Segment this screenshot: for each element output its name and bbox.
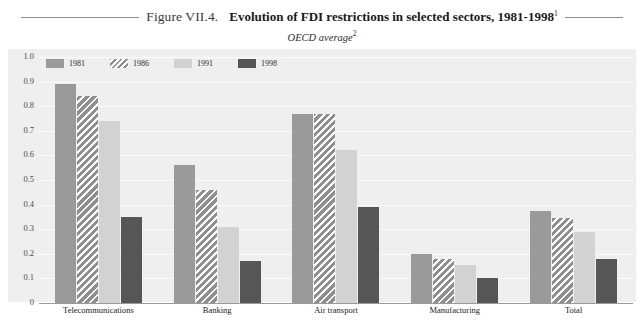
x-axis-line bbox=[39, 303, 633, 304]
y-axis-tick-label: 0.6 bbox=[23, 149, 34, 159]
header-rule-right bbox=[565, 17, 623, 18]
y-axis-tick-label: 0 bbox=[30, 297, 34, 307]
bar-1998[interactable] bbox=[477, 278, 498, 303]
bar-group bbox=[277, 57, 396, 303]
bar-1991[interactable] bbox=[218, 227, 239, 303]
y-axis-tick-label: 0.5 bbox=[23, 174, 34, 184]
category-label: Air transport bbox=[277, 305, 396, 315]
figure-header: Figure VII.4. Evolution of FDI restricti… bbox=[0, 6, 644, 28]
bar-group bbox=[395, 57, 514, 303]
bar-1981[interactable] bbox=[411, 254, 432, 303]
bar-group bbox=[39, 57, 158, 303]
title-footnote-marker: 1 bbox=[554, 9, 558, 18]
bar-1991[interactable] bbox=[336, 150, 357, 303]
bar-1986[interactable] bbox=[196, 190, 217, 303]
bar-1981[interactable] bbox=[530, 211, 551, 303]
bar-1986[interactable] bbox=[433, 259, 454, 303]
bar-1998[interactable] bbox=[596, 259, 617, 303]
y-axis-tick-label: 0.7 bbox=[23, 125, 34, 135]
bar-1981[interactable] bbox=[292, 114, 313, 303]
figure-title-text: Evolution of FDI restrictions in selecte… bbox=[229, 9, 554, 24]
y-axis-tick-label: 0.8 bbox=[23, 100, 34, 110]
bar-1991[interactable] bbox=[574, 232, 595, 303]
bar-1986[interactable] bbox=[552, 218, 573, 303]
bar-1991[interactable] bbox=[455, 265, 476, 303]
y-axis-tick-label: 0.3 bbox=[23, 223, 34, 233]
category-label: Telecommunications bbox=[39, 305, 158, 315]
y-axis-tick-label: 0.9 bbox=[23, 76, 34, 86]
bar-1998[interactable] bbox=[240, 261, 261, 303]
page-title: Evolution of FDI restrictions in selecte… bbox=[229, 9, 557, 25]
bar-1986[interactable] bbox=[77, 96, 98, 303]
figure-number: Figure VII.4. bbox=[146, 9, 218, 25]
bar-groups bbox=[39, 57, 633, 303]
subtitle-text: OECD average bbox=[288, 32, 353, 43]
figure-subtitle: OECD average2 bbox=[0, 29, 644, 43]
bar-1998[interactable] bbox=[358, 207, 379, 303]
header-rule-left bbox=[21, 17, 139, 18]
category-label: Banking bbox=[158, 305, 277, 315]
y-axis-tick-label: 0.2 bbox=[23, 248, 34, 258]
category-label: Total bbox=[514, 305, 633, 315]
y-axis-tick-label: 0.1 bbox=[23, 272, 34, 282]
bar-1986[interactable] bbox=[314, 114, 335, 303]
figure-container: Figure VII.4. Evolution of FDI restricti… bbox=[0, 0, 644, 323]
bar-1981[interactable] bbox=[55, 84, 76, 303]
bar-group bbox=[514, 57, 633, 303]
plot-area: 1.00.90.80.70.60.50.40.30.20.10 bbox=[39, 57, 633, 303]
bar-1998[interactable] bbox=[121, 217, 142, 303]
bar-group bbox=[158, 57, 277, 303]
y-axis-tick-label: 1.0 bbox=[23, 51, 34, 61]
category-label: Manufacturing bbox=[395, 305, 514, 315]
subtitle-footnote-marker: 2 bbox=[353, 29, 357, 38]
bar-1991[interactable] bbox=[99, 121, 120, 303]
y-axis-tick-label: 0.4 bbox=[23, 199, 34, 209]
x-axis-category-labels: TelecommunicationsBankingAir transportMa… bbox=[39, 305, 633, 315]
bar-1981[interactable] bbox=[174, 165, 195, 303]
